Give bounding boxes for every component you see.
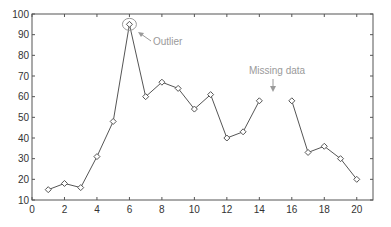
x-tick-label: 0	[29, 204, 35, 215]
y-tick-label: 10	[18, 195, 30, 206]
diamond-marker-icon	[289, 98, 295, 104]
x-tick-label: 20	[351, 204, 363, 215]
missing-data-arrowhead-icon	[270, 86, 276, 92]
diamond-marker-icon	[110, 118, 116, 124]
x-tick-label: 12	[221, 204, 233, 215]
line-chart: 02468101214161820 102030405060708090100 …	[0, 0, 391, 227]
y-tick-label: 90	[18, 29, 30, 40]
diamond-marker-icon	[94, 154, 100, 160]
x-tick-label: 14	[254, 204, 266, 215]
diamond-marker-icon	[126, 21, 132, 27]
diamond-marker-icon	[224, 135, 230, 141]
x-tick-label: 6	[127, 204, 133, 215]
y-tick-label: 60	[18, 91, 30, 102]
diamond-marker-icon	[61, 180, 67, 186]
diamond-marker-icon	[45, 187, 51, 193]
plot-box	[32, 14, 373, 200]
annotations: Outlier Missing data	[122, 18, 305, 92]
x-tick-label: 18	[319, 204, 331, 215]
diamond-marker-icon	[305, 149, 311, 155]
y-tick-label: 70	[18, 71, 30, 82]
diamond-marker-icon	[256, 98, 262, 104]
diamond-marker-icon	[240, 129, 246, 135]
series-line	[48, 24, 259, 189]
y-tick-label: 80	[18, 50, 30, 61]
outlier-label: Outlier	[153, 36, 183, 47]
y-tick-label: 50	[18, 112, 30, 123]
diamond-marker-icon	[78, 185, 84, 191]
x-axis: 02468101214161820	[29, 14, 363, 215]
outlier-arrow	[141, 34, 151, 41]
y-tick-label: 20	[18, 174, 30, 185]
outlier-arrowhead-icon	[138, 32, 144, 37]
y-tick-label: 100	[12, 9, 29, 20]
missing-data-label: Missing data	[249, 65, 306, 76]
data-series	[45, 21, 360, 192]
x-tick-label: 10	[189, 204, 201, 215]
x-tick-label: 16	[286, 204, 298, 215]
x-tick-label: 2	[62, 204, 68, 215]
y-tick-label: 30	[18, 153, 30, 164]
y-tick-label: 40	[18, 133, 30, 144]
x-tick-label: 8	[159, 204, 165, 215]
plot-frame	[32, 14, 373, 200]
x-tick-label: 4	[94, 204, 100, 215]
series-line	[292, 101, 357, 180]
